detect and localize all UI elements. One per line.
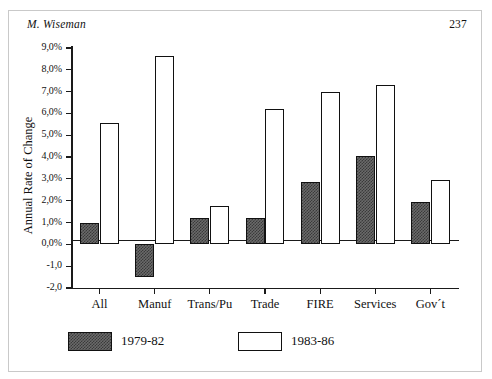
x-axis-tick: [154, 288, 155, 294]
bar-trade-1983-86: [265, 109, 284, 244]
y-axis-tick-label: 2,0%: [42, 194, 62, 205]
y-axis-title: Annual Rate of Change: [21, 86, 36, 266]
x-axis-tick: [264, 288, 265, 294]
plot-area: [72, 48, 458, 288]
x-axis-tick-label: FIRE: [307, 297, 334, 312]
y-axis-tick-label: 8,0%: [42, 63, 62, 74]
x-axis-tick-label: Trans/Pu: [187, 297, 232, 312]
bar-all-1979-82: [80, 223, 99, 245]
bar-services-1983-86: [376, 85, 395, 244]
x-axis-tick: [320, 288, 321, 294]
y-axis-tick-label: 4,0%: [42, 150, 62, 161]
y-axis-tick-label: 1,0%: [42, 216, 62, 227]
legend-label-1983-86: 1983-86: [291, 333, 334, 349]
bar-manuf-1979-82: [135, 244, 154, 277]
y-axis-tick-label: 5,0%: [42, 128, 62, 139]
x-axis-tick: [209, 288, 210, 294]
y-axis-tick-label: 0,0%: [42, 237, 62, 248]
y-axis-tick-label: 6,0%: [42, 106, 62, 117]
legend-swatch-icon-1983-86: [238, 332, 282, 351]
bar-trade-1979-82: [246, 218, 265, 244]
y-axis-tick-label: 7,0%: [42, 85, 62, 96]
legend-entry-1979-82: 1979-82: [68, 330, 164, 352]
bar-chart: 9,0%8,0%7,0%6,0%5,0%4,0%3,0%2,0%1,0%0,0%…: [0, 0, 492, 379]
bar-services-1979-82: [356, 156, 375, 244]
bar-trans-pu-1979-82: [190, 218, 209, 244]
bar-fire-1979-82: [301, 182, 320, 244]
x-axis-tick-label: Services: [354, 297, 396, 312]
y-axis-tick-label: 9,0%: [42, 41, 62, 52]
bar-trans-pu-1983-86: [210, 206, 229, 244]
x-axis-tick-label: Gov´t: [416, 297, 445, 312]
y-axis-tick-label: -1,0: [47, 259, 62, 270]
y-axis-tick-label: 3,0%: [42, 172, 62, 183]
x-axis-tick-label: Trade: [251, 297, 280, 312]
bar-manuf-1983-86: [155, 56, 174, 245]
x-axis-tick-label: All: [92, 297, 108, 312]
x-axis-tick: [430, 288, 431, 294]
bar-gov-t-1983-86: [431, 180, 450, 244]
legend-swatch-icon-1979-82: [68, 332, 112, 351]
x-axis-tick: [375, 288, 376, 294]
bar-all-1983-86: [100, 123, 119, 244]
x-axis-tick-label: Manuf: [138, 297, 171, 312]
bar-fire-1983-86: [321, 92, 340, 245]
x-axis-tick: [99, 288, 100, 294]
legend-entry-1983-86: 1983-86: [238, 330, 334, 352]
bar-gov-t-1979-82: [411, 202, 430, 245]
y-axis-tick-label: -2,0: [47, 281, 62, 292]
legend-label-1979-82: 1979-82: [121, 333, 164, 349]
